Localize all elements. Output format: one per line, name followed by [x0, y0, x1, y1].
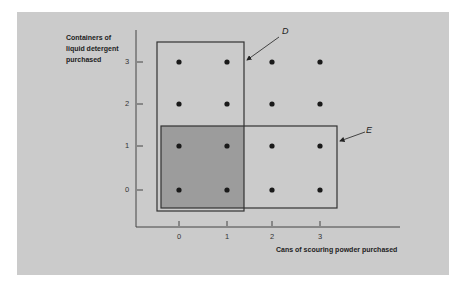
x-tick-label-3: 3	[318, 232, 322, 241]
x-ticks	[179, 221, 320, 226]
y-tick-label-2: 2	[125, 99, 129, 108]
y-tick-label-0: 0	[125, 185, 129, 194]
y-axis-label: Containers of liquid detergent purchased	[66, 32, 156, 65]
y-ticks	[137, 62, 143, 190]
y-axis-label-line-3: purchased	[66, 54, 156, 65]
intersection-region	[161, 126, 244, 208]
y-axis-label-line-2: liquid detergent	[66, 43, 156, 54]
set-e-label: E	[366, 125, 372, 135]
y-tick-label-1: 1	[125, 141, 129, 150]
x-axis-label: Cans of scouring powder purchased	[276, 246, 397, 253]
x-tick-label-0: 0	[177, 232, 181, 241]
arrow-to-d-icon	[247, 37, 279, 60]
y-tick-label-3: 3	[125, 57, 129, 66]
x-tick-label-2: 2	[270, 232, 274, 241]
y-axis-label-line-1: Containers of	[66, 32, 156, 43]
x-tick-label-1: 1	[225, 232, 229, 241]
arrow-to-e-icon	[340, 132, 365, 141]
set-d-label: D	[282, 26, 289, 36]
